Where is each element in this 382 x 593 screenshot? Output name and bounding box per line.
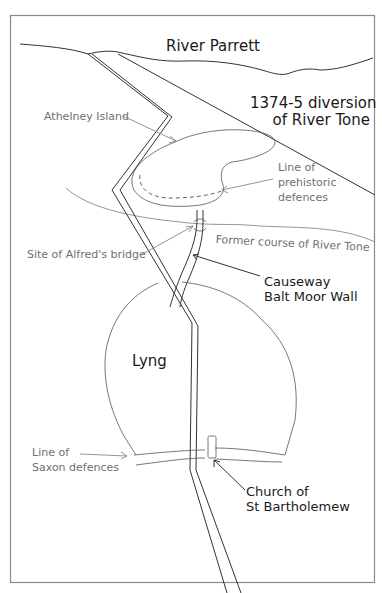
label-church-line1: Church of — [246, 484, 350, 499]
label-causeway-line2: Balt Moor Wall — [264, 289, 358, 304]
prehistoric-arrow — [222, 179, 273, 193]
label-lyng: Lyng — [132, 353, 167, 370]
label-diversion-line1: 1374-5 diversion — [250, 95, 370, 112]
label-prehistoric-defences: Line of prehistoric defences — [278, 160, 336, 205]
main-road-left — [88, 54, 227, 593]
label-prehistoric-line2: prehistoric — [278, 175, 336, 190]
label-prehistoric-line3: defences — [278, 190, 336, 205]
label-athelney-island: Athelney Island — [44, 109, 129, 124]
athelney-arrow — [123, 116, 176, 143]
label-church: Church of St Bartholemew — [246, 484, 350, 514]
church-marker — [208, 436, 216, 458]
causeway-right — [180, 210, 203, 307]
label-causeway: Causeway Balt Moor Wall — [264, 274, 358, 304]
label-river-parrett: River Parrett — [166, 38, 260, 55]
label-prehistoric-line1: Line of — [278, 160, 336, 175]
label-diversion-line2: of River Tone — [250, 112, 370, 129]
saxon-defences-top — [134, 448, 285, 455]
label-saxon-defences: Line of Saxon defences — [32, 445, 119, 475]
label-alfreds-bridge: Site of Alfred's bridge — [27, 247, 146, 262]
label-causeway-line1: Causeway — [264, 274, 358, 289]
label-church-line2: St Bartholemew — [246, 499, 350, 514]
athelney-island-outline — [132, 130, 275, 207]
label-saxon-line1: Line of — [32, 445, 119, 460]
label-diversion: 1374-5 diversion of River Tone — [250, 95, 370, 129]
church-arrow — [214, 460, 245, 490]
causeway-arrow — [193, 254, 260, 276]
prehistoric-defences-line — [140, 175, 224, 198]
saxon-defences-bottom — [136, 458, 282, 465]
label-saxon-line2: Saxon defences — [32, 460, 119, 475]
bridge-marker — [194, 219, 206, 231]
